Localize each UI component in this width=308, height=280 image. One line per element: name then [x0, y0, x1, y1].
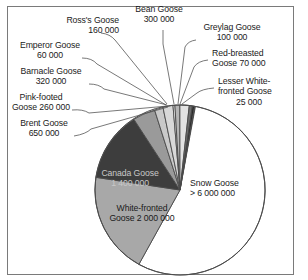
- label-bean-goose: Bean Goose 300 000: [126, 4, 192, 25]
- label-lesser-white-fronted-goose-name2: fronted Goose: [218, 86, 296, 96]
- leader-line-lesser-white: [182, 88, 214, 104]
- label-ross-goose-value: 160 000: [47, 25, 119, 35]
- label-barnacle-goose-value: 320 000: [12, 76, 90, 86]
- label-red-breasted-goose: Red-breasted Goose 70 000: [212, 48, 292, 69]
- label-ross-goose: Ross's Goose 160 000: [47, 15, 119, 36]
- label-emperor-goose: Emperor Goose 60 000: [16, 40, 84, 61]
- label-canada-goose: Canada Goose 1 400 000: [98, 168, 162, 189]
- label-white-fronted-goose-name: White-fronted: [100, 203, 184, 213]
- leader-line-barnacle: [89, 84, 167, 105]
- leader-line-greylag: [178, 40, 196, 104]
- label-white-fronted-goose-value: Goose 2 000 000: [100, 213, 184, 223]
- label-brent-goose-name: Brent Goose: [11, 118, 77, 128]
- leader-line-red-breasted: [180, 60, 208, 104]
- label-barnacle-goose: Barnacle Goose 320 000: [12, 66, 90, 87]
- label-snow-goose: Snow Goose > 6 000 000: [190, 178, 270, 199]
- label-white-fronted-goose: White-fronted Goose 2 000 000: [100, 203, 184, 224]
- label-lesser-white-fronted-goose-name: Lesser White-: [218, 76, 296, 86]
- label-pink-footed-goose: Pink-footed Goose 260 000: [8, 92, 74, 113]
- pie-chart-figure: Ross's Goose 160 000 Bean Goose 300 000 …: [0, 0, 308, 280]
- label-barnacle-goose-name: Barnacle Goose: [12, 66, 90, 76]
- label-pink-footed-goose-value: Goose 260 000: [8, 102, 74, 112]
- label-brent-goose: Brent Goose 650 000: [11, 118, 77, 139]
- label-lesser-white-fronted-goose: Lesser White- fronted Goose 25 000: [218, 76, 296, 107]
- label-brent-goose-value: 650 000: [11, 128, 77, 138]
- label-red-breasted-goose-name: Red-breasted: [212, 48, 292, 58]
- label-lesser-white-fronted-goose-value: 25 000: [218, 97, 280, 107]
- label-ross-goose-name: Ross's Goose: [47, 15, 119, 25]
- label-snow-goose-value: > 6 000 000: [190, 188, 270, 198]
- label-emperor-goose-name: Emperor Goose: [16, 40, 84, 50]
- label-bean-goose-value: 300 000: [126, 14, 192, 24]
- label-snow-goose-name: Snow Goose: [190, 178, 270, 188]
- label-greylag-goose-name: Greylag Goose: [194, 22, 270, 32]
- label-canada-goose-value: 1 400 000: [98, 178, 162, 188]
- leader-line-bean: [163, 30, 174, 104]
- label-red-breasted-goose-value: Goose 70 000: [212, 58, 292, 68]
- label-pink-footed-goose-name: Pink-footed: [8, 92, 74, 102]
- label-greylag-goose-value: 100 000: [194, 32, 270, 42]
- leader-line-emperor: [82, 58, 166, 105]
- leader-line-ross: [101, 33, 167, 104]
- label-canada-goose-name: Canada Goose: [98, 168, 162, 178]
- label-emperor-goose-value: 60 000: [16, 50, 84, 60]
- label-greylag-goose: Greylag Goose 100 000: [194, 22, 270, 43]
- label-bean-goose-name: Bean Goose: [126, 4, 192, 14]
